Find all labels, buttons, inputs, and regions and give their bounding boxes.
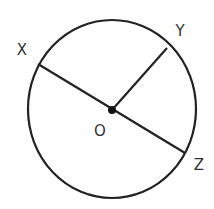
label-z: Z bbox=[194, 156, 204, 174]
center-point-o bbox=[108, 106, 116, 114]
label-y: Y bbox=[174, 22, 185, 40]
circle-diagram: X Y Z O bbox=[0, 0, 214, 209]
radius-oy bbox=[112, 48, 167, 110]
label-o: O bbox=[94, 122, 106, 140]
label-x: X bbox=[17, 41, 27, 59]
